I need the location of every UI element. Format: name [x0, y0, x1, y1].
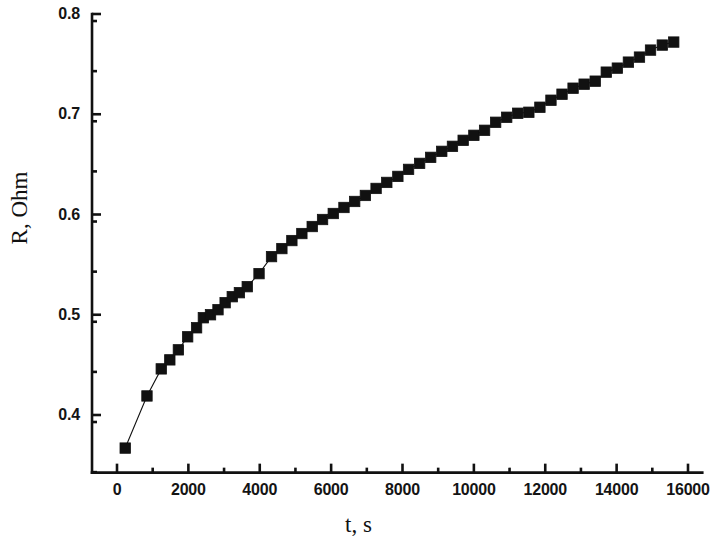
data-point-marker: [479, 125, 489, 135]
x-tick-label: 10000: [452, 481, 496, 499]
y-tick-label: 0.8: [20, 5, 80, 23]
data-point-marker: [579, 79, 589, 89]
x-tick-label: 16000: [666, 481, 710, 499]
axes: [92, 14, 702, 473]
data-point-marker: [535, 102, 545, 112]
data-point-marker: [568, 83, 578, 93]
data-series: [120, 37, 679, 453]
x-tick-label: 14000: [595, 481, 639, 499]
data-point-marker: [513, 108, 523, 118]
chart-figure: 0.40.50.60.70.80200040006000800010000120…: [0, 0, 717, 547]
data-point-marker: [120, 443, 130, 453]
data-point-marker: [393, 171, 403, 181]
data-point-marker: [557, 89, 567, 99]
data-point-marker: [317, 214, 327, 224]
data-point-marker: [546, 95, 556, 105]
data-point-marker: [287, 235, 297, 245]
data-point-marker: [601, 67, 611, 77]
series-line: [125, 42, 674, 448]
data-point-marker: [623, 57, 633, 67]
x-tick-label: 8000: [385, 481, 420, 499]
y-tick-label: 0.7: [20, 105, 80, 123]
data-point-marker: [382, 177, 392, 187]
plot-svg: [0, 0, 717, 547]
data-point-marker: [502, 112, 512, 122]
data-point-marker: [524, 107, 534, 117]
data-point-marker: [360, 190, 370, 200]
data-point-marker: [328, 208, 338, 218]
y-tick-label: 0.5: [20, 306, 80, 324]
data-point-marker: [371, 183, 381, 193]
x-tick-label: 0: [113, 481, 122, 499]
data-point-marker: [307, 221, 317, 231]
data-point-marker: [297, 228, 307, 238]
data-point-marker: [590, 76, 600, 86]
data-point-marker: [634, 52, 644, 62]
data-point-marker: [458, 135, 468, 145]
data-point-marker: [447, 141, 457, 151]
x-tick-label: 6000: [314, 481, 349, 499]
x-tick-label: 12000: [524, 481, 568, 499]
data-point-marker: [669, 37, 679, 47]
data-point-marker: [403, 164, 413, 174]
data-point-marker: [254, 268, 264, 278]
data-point-marker: [165, 355, 175, 365]
data-point-marker: [414, 158, 424, 168]
data-point-marker: [657, 40, 667, 50]
y-tick-label: 0.4: [20, 406, 80, 424]
x-tick-label: 4000: [242, 481, 277, 499]
plot-area: [0, 0, 717, 547]
data-point-marker: [142, 391, 152, 401]
data-point-marker: [191, 323, 201, 333]
data-point-marker: [266, 251, 276, 261]
data-point-marker: [425, 152, 435, 162]
data-point-marker: [242, 281, 252, 291]
data-point-marker: [339, 202, 349, 212]
y-axis-title: R, Ohm: [7, 128, 33, 288]
data-point-marker: [349, 196, 359, 206]
x-tick-label: 2000: [171, 481, 206, 499]
data-point-marker: [612, 63, 622, 73]
data-point-marker: [173, 345, 183, 355]
data-point-marker: [645, 45, 655, 55]
x-axis-title: t, s: [0, 512, 717, 538]
data-point-marker: [437, 146, 447, 156]
data-point-marker: [277, 243, 287, 253]
data-point-marker: [490, 117, 500, 127]
data-point-marker: [469, 130, 479, 140]
